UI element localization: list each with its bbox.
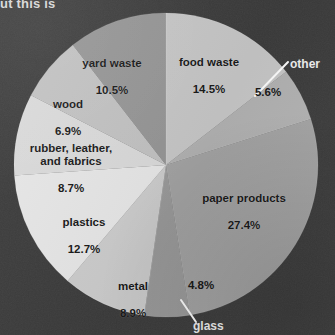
slice-pct-glass: 4.8%	[181, 279, 221, 291]
slice-label-metal: metal 8.9%	[100, 266, 166, 320]
slice-label-rubber-pct: 8.7%	[58, 182, 84, 194]
slice-label-food-waste-name: food waste	[179, 56, 239, 68]
slice-label-paper-pct: 27.4%	[228, 219, 261, 231]
slice-label-rubber-name: rubber, leather, and fabrics	[30, 142, 112, 168]
slice-label-yard-waste-name: yard waste	[82, 57, 141, 69]
slice-label-paper-name: paper products	[202, 192, 286, 204]
pie-chart-figure: ut this is food waste 14.5%	[0, 0, 335, 335]
slice-label-wood-name: wood	[53, 98, 83, 110]
slice-label-metal-name: metal	[118, 280, 148, 292]
slice-label-food-waste-pct: 14.5%	[193, 83, 226, 95]
slice-label-rubber-leather-fabrics: rubber, leather, and fabrics 8.7%	[8, 128, 134, 196]
slice-label-plastics-pct: 12.7%	[68, 243, 101, 255]
slice-pct-other: 5.6%	[244, 86, 292, 98]
clipped-caption-text: ut this is	[0, 0, 150, 12]
slice-label-paper-products: paper products 27.4%	[180, 178, 308, 232]
callout-label-other: other	[290, 58, 320, 72]
slice-label-plastics: plastics 12.7%	[38, 202, 130, 256]
callout-label-glass: glass	[193, 320, 224, 334]
slice-label-plastics-name: plastics	[63, 216, 106, 228]
slice-label-metal-pct: 8.9%	[120, 307, 146, 319]
